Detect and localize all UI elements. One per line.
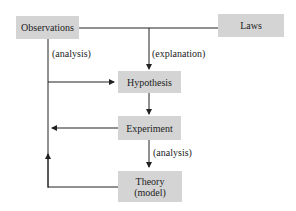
- hypothesis-label: Hypothesis: [127, 77, 172, 88]
- observations-node: Observations: [16, 16, 79, 39]
- explanation-label: (explanation): [152, 48, 205, 59]
- laws-node: Laws: [218, 14, 284, 37]
- theory-node: Theory (model): [118, 171, 182, 202]
- hypothesis-node: Hypothesis: [118, 71, 181, 93]
- laws-label: Laws: [240, 20, 262, 31]
- analysis-label-bottom: (analysis): [153, 147, 192, 158]
- observations-label: Observations: [21, 22, 74, 33]
- experiment-node: Experiment: [118, 116, 181, 140]
- theory-model-label: (model): [134, 187, 166, 198]
- analysis-label-top: (analysis): [52, 48, 91, 59]
- experiment-label: Experiment: [126, 123, 173, 134]
- theory-label: Theory: [136, 176, 165, 187]
